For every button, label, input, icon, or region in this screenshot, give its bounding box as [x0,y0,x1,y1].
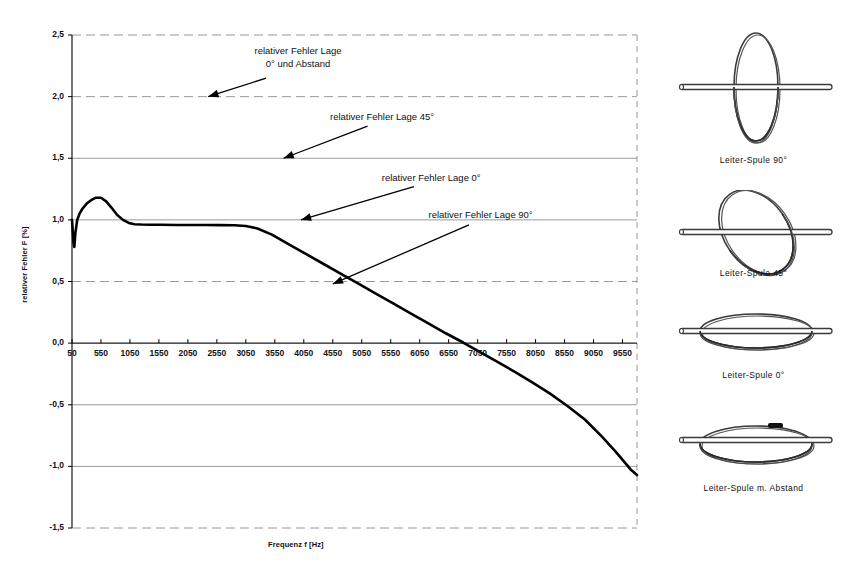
annot-0deg-abstand-arrow [208,78,266,97]
y-tick-label: -1,0 [34,460,64,470]
y-tick-label: 1,5 [34,152,64,162]
y-tick-label: 0,5 [34,276,64,286]
rod-end-cap [680,329,684,334]
y-tick-label: -0,5 [34,399,64,409]
leiter-spule-90-diagram [660,22,847,162]
y-tick-marks [68,35,72,528]
series-line-0 [72,198,637,475]
chart-figure: -1,5-1,0-0,50,00,51,01,52,02,5 505501050… [0,0,660,578]
annot-45deg-arrow [284,126,368,158]
y-axis-title: relativer Fehler F [%] [20,205,29,325]
leiter-spule-abstand-drawing [660,400,847,545]
annot-90deg-arrow [333,225,469,284]
leiter-spule-abstand-caption: Leiter-Spule m. Abstand [660,483,847,493]
chart-plot-area [0,0,660,578]
data-series-line [72,198,637,475]
leiter-spule-abstand-diagram [660,400,847,540]
figure-root: -1,5-1,0-0,50,00,51,01,52,02,5 505501050… [0,0,847,578]
y-tick-label: 2,5 [34,29,64,39]
x-axis-title: Frequenz f [Hz] [268,540,324,549]
annot-45deg: relativer Fehler Lage 45° [330,110,434,123]
annotation-line: relativer Fehler Lage 45° [330,110,434,123]
x-tick-marks [72,339,623,343]
annotation-line: relativer Fehler Lage 90° [429,208,533,221]
conductor-rod [680,85,832,90]
annot-90deg: relativer Fehler Lage 90° [429,208,533,221]
annot-0deg-arrow [301,187,414,221]
leiter-spule-45-caption: Leiter-Spule 45° [660,268,847,278]
spacer-block [768,423,783,428]
x-tick-label: 9550 [603,348,643,358]
y-tick-label: 0,0 [34,337,64,347]
rod-end-cap [680,85,684,90]
leiter-spule-90-drawing [660,22,847,167]
coil-front-arc-2 [734,89,778,143]
rod-end-cap [680,230,684,235]
annotation-line: 0° und Abstand [255,57,342,70]
leiter-spule-0-caption: Leiter-Spule 0° [660,370,847,380]
y-tick-label: 2,0 [34,91,64,101]
conductor-rod [680,230,832,235]
leiter-spule-90-caption: Leiter-Spule 90° [660,155,847,165]
annotation-line: relativer Fehler Lage 0° [382,171,481,184]
conductor-rod [680,438,832,443]
illustration-column: Leiter-Spule 90°Leiter-Spule 45°Leiter-S… [660,0,847,578]
annot-0deg-abstand: relativer Fehler Lage0° und Abstand [255,44,342,70]
conductor-rod [680,329,832,334]
annot-0deg: relativer Fehler Lage 0° [382,171,481,184]
coil-front-arc-2 [731,215,810,289]
y-tick-label: -1,5 [34,522,64,532]
annotation-line: relativer Fehler Lage [255,44,342,57]
rod-end-cap [680,438,684,443]
y-tick-label: 1,0 [34,214,64,224]
